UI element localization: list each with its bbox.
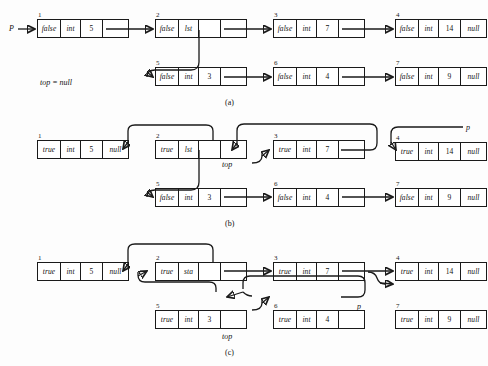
node-number: 5: [156, 59, 160, 67]
node-type-cell: int: [179, 189, 199, 206]
node-type-cell: int: [419, 20, 439, 37]
node-type-cell: int: [419, 189, 439, 206]
node-number: 1: [38, 254, 42, 262]
list-node: false int 3: [155, 188, 247, 207]
node-type-cell: int: [419, 143, 439, 160]
node-value-cell: 5: [81, 263, 103, 280]
panel-c: 1 2 3 4 5 6 7 true int 5 null true sta t…: [0, 240, 488, 366]
pointer-label-p: p: [357, 302, 361, 311]
node-type-cell: int: [179, 311, 199, 328]
node-number: 7: [396, 180, 400, 188]
node-value-cell: 7: [317, 263, 339, 280]
node-number: 3: [274, 11, 278, 19]
node-type-cell: int: [297, 141, 317, 158]
node-type-cell: int: [419, 68, 439, 85]
node-flag-cell: false: [156, 189, 179, 206]
list-node: false int 7: [273, 19, 365, 38]
node-pointer-cell: [221, 68, 246, 85]
node-type-cell: int: [297, 68, 317, 85]
list-node: false int 3: [155, 67, 247, 86]
node-type-cell: int: [297, 311, 317, 328]
node-type-cell: int: [297, 189, 317, 206]
node-value-cell: 3: [199, 68, 221, 85]
node-number: 6: [274, 59, 278, 67]
node-number: 2: [156, 132, 160, 140]
pointer-label-p: P: [9, 24, 14, 33]
node-number: 1: [38, 132, 42, 140]
node-value-cell: 3: [199, 311, 221, 328]
node-pointer-cell: [221, 311, 246, 328]
node-type-cell: int: [179, 68, 199, 85]
panel-b: 1 2 3 4 5 6 7 true int 5 null true lst t…: [0, 120, 488, 240]
node-flag-cell: false: [396, 20, 419, 37]
node-type-cell: sta: [179, 263, 199, 280]
node-type-cell: int: [297, 20, 317, 37]
node-value-cell: 9: [439, 68, 461, 85]
node-pointer-cell: null: [461, 68, 486, 85]
node-pointer-cell: null: [461, 189, 486, 206]
node-pointer-cell: [221, 141, 246, 158]
list-node: false lst: [155, 19, 247, 38]
list-node: false int 9 null: [395, 188, 487, 207]
node-value-cell: 7: [317, 20, 339, 37]
list-node: true int 7: [273, 262, 365, 281]
pointer-label-top: top: [222, 332, 232, 341]
node-flag-cell: false: [38, 20, 61, 37]
node-number: 4: [396, 134, 400, 142]
node-pointer-cell: [339, 311, 364, 328]
node-flag-cell: false: [274, 68, 297, 85]
list-node: true int 4: [273, 310, 365, 329]
node-pointer-cell: [221, 263, 246, 280]
node-number: 2: [156, 254, 160, 262]
node-flag-cell: true: [38, 263, 61, 280]
node-pointer-cell: [339, 20, 364, 37]
node-pointer-cell: [339, 189, 364, 206]
node-number: 5: [156, 180, 160, 188]
node-pointer-cell: [339, 263, 364, 280]
list-node: false int 14 null: [395, 19, 487, 38]
node-value-cell: 9: [439, 189, 461, 206]
node-value-cell: 4: [317, 311, 339, 328]
list-node: false int 4: [273, 67, 365, 86]
node-pointer-cell: [221, 20, 246, 37]
list-node: true int 14 null: [395, 142, 487, 161]
list-node: false int 4: [273, 188, 365, 207]
node-flag-cell: false: [274, 20, 297, 37]
node-value-cell: [199, 20, 221, 37]
list-node: true lst: [155, 140, 247, 159]
pointer-label-top: top: [222, 160, 232, 169]
node-pointer-cell: null: [103, 263, 128, 280]
node-flag-cell: false: [156, 20, 179, 37]
node-number: 6: [274, 180, 278, 188]
list-node: true int 9 null: [395, 310, 487, 329]
node-number: 6: [274, 302, 278, 310]
node-number: 4: [396, 11, 400, 19]
node-pointer-cell: null: [461, 143, 486, 160]
node-flag-cell: true: [396, 143, 419, 160]
panel-caption: (a): [225, 98, 234, 107]
node-type-cell: lst: [179, 20, 199, 37]
node-flag-cell: true: [396, 263, 419, 280]
node-flag-cell: true: [396, 311, 419, 328]
list-node: true int 5 null: [37, 140, 129, 159]
node-pointer-cell: [339, 141, 364, 158]
node-type-cell: int: [419, 263, 439, 280]
node-flag-cell: true: [274, 263, 297, 280]
node-value-cell: 14: [439, 263, 461, 280]
node-pointer-cell: null: [461, 20, 486, 37]
panel-caption: (c): [225, 348, 234, 357]
node-pointer-cell: null: [461, 311, 486, 328]
node-number: 2: [156, 11, 160, 19]
node-value-cell: 3: [199, 189, 221, 206]
panel-caption: (b): [225, 219, 234, 228]
node-number: 1: [38, 11, 42, 19]
node-flag-cell: true: [156, 311, 179, 328]
node-pointer-cell: [339, 68, 364, 85]
node-value-cell: [199, 263, 221, 280]
node-number: 3: [274, 254, 278, 262]
node-value-cell: 5: [81, 141, 103, 158]
list-node: false int 5: [37, 19, 129, 38]
node-pointer-cell: [221, 189, 246, 206]
node-type-cell: int: [61, 263, 81, 280]
list-node: true int 14 null: [395, 262, 487, 281]
